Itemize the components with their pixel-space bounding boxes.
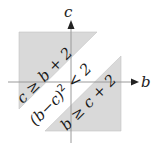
b-axis-label: b	[141, 73, 151, 91]
c-axis-arrowhead-icon	[68, 20, 75, 29]
diagram-canvas: b c c ≥ b + 2 (b−c)2 < 2 b ≥ c + 2	[0, 0, 156, 150]
c-axis-label: c	[64, 3, 73, 21]
b-axis-arrowhead-icon	[131, 79, 139, 86]
region-diagram: b c c ≥ b + 2 (b−c)2 < 2 b ≥ c + 2	[0, 0, 156, 150]
